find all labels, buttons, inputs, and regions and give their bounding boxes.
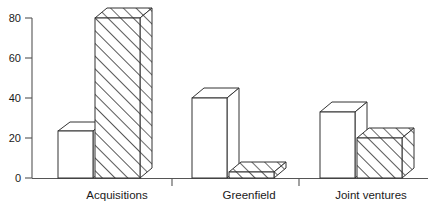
bar-group-joint-ventures: Joint ventures (320, 102, 414, 201)
bar-front-face (320, 112, 355, 178)
category-label-acquisitions: Acquisitions (86, 189, 148, 201)
bar-side-face (227, 88, 239, 178)
y-tick-label-40: 40 (9, 92, 21, 104)
y-tick-label-0: 0 (15, 172, 21, 184)
chart-container: 80 60 40 20 0 Acquisitions (0, 0, 431, 217)
x-axis (32, 179, 428, 187)
bar-front-face (357, 138, 402, 178)
bar-chart: 80 60 40 20 0 Acquisitions (0, 0, 431, 217)
category-label-joint-ventures: Joint ventures (335, 189, 407, 201)
y-tick-label-80: 80 (9, 12, 21, 24)
category-label-greenfield: Greenfield (222, 189, 275, 201)
bar-acquisitions-hatched[interactable] (95, 8, 152, 178)
bar-front-face (95, 18, 140, 178)
bar-front-face (192, 98, 227, 178)
bar-front-face (58, 131, 93, 178)
bar-greenfield-open[interactable] (192, 88, 239, 178)
y-tick-label-20: 20 (9, 132, 21, 144)
bar-front-face (229, 172, 274, 178)
bar-side-face (140, 8, 152, 178)
y-tick-label-60: 60 (9, 52, 21, 64)
bar-group-greenfield: Greenfield (192, 88, 286, 201)
bar-joint-ventures-hatched[interactable] (357, 128, 414, 178)
y-axis: 80 60 40 20 0 (9, 12, 32, 184)
bar-greenfield-hatched[interactable] (229, 162, 286, 178)
bar-group-acquisitions: Acquisitions (58, 8, 152, 201)
